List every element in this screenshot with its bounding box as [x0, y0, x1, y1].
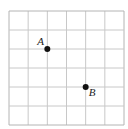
- point-a-label: A: [36, 35, 44, 47]
- grid-lines: [9, 11, 124, 125]
- point-b-label: B: [89, 86, 96, 98]
- coordinate-grid: AB: [0, 0, 128, 129]
- point-a-marker: [44, 46, 50, 52]
